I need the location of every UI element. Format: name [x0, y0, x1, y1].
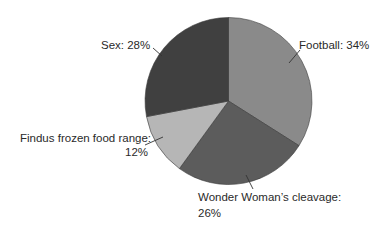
slice-sex — [145, 18, 228, 117]
pie-chart-svg: Football: 34% Sex: 28% Findus frozen foo… — [0, 0, 386, 231]
label-findus-line2: 12% — [125, 146, 148, 158]
label-wonder-woman-line2: 26% — [198, 207, 221, 219]
label-findus-line1: Findus frozen food range: — [20, 132, 151, 144]
label-wonder-woman-line1: Wonder Woman’s cleavage: — [198, 191, 341, 203]
label-football: Football: 34% — [299, 39, 369, 51]
pie-chart: Football: 34% Sex: 28% Findus frozen foo… — [0, 0, 386, 231]
label-sex: Sex: 28% — [101, 39, 150, 51]
